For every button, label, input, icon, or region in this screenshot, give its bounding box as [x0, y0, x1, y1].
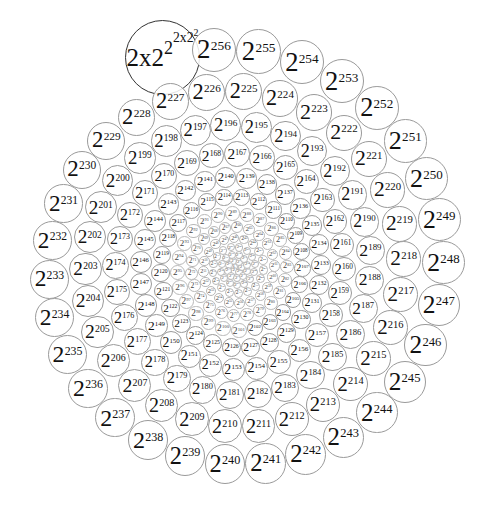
exponent: 30 — [223, 248, 226, 251]
exponent: 80 — [271, 299, 275, 304]
special-sup1: 2 — [164, 39, 173, 57]
power-label: 2250 — [410, 166, 443, 192]
exponent: 243 — [340, 426, 359, 440]
power-circle: 2253 — [320, 59, 364, 103]
power-circle: 2227 — [152, 83, 190, 121]
power-circle: 2132 — [309, 275, 329, 295]
power-circle: 2191 — [338, 180, 368, 210]
power-label: 213 — [242, 256, 247, 261]
power-label: 239 — [252, 283, 258, 289]
exponent: 145 — [144, 235, 154, 242]
power-label: 291 — [200, 217, 209, 226]
power-label: 2132 — [311, 279, 326, 291]
exponent: 218 — [401, 250, 417, 261]
exponent: 194 — [283, 129, 297, 139]
power-label: 274 — [197, 293, 205, 301]
power-label: 2194 — [274, 127, 297, 145]
power-label: 2231 — [49, 192, 78, 215]
exponent: 15 — [232, 252, 234, 255]
special-sup2: 2x2 — [173, 31, 194, 45]
power-label: 2226 — [193, 81, 221, 103]
power-label: 2103 — [264, 317, 276, 327]
exponent: 163 — [321, 193, 332, 202]
exponent: 122 — [169, 303, 177, 309]
exponent: 151 — [188, 350, 198, 357]
exponent: 203 — [83, 260, 97, 271]
exponent: 124 — [194, 330, 202, 336]
power-label: 2148 — [138, 299, 155, 312]
power-label: 290 — [214, 211, 223, 220]
power-circle: 2245 — [384, 361, 426, 403]
exponent: 25 — [255, 261, 257, 264]
exponent: 142 — [184, 184, 194, 191]
power-label: 2161 — [333, 237, 352, 252]
exponent: 101 — [238, 327, 245, 332]
power-circle: 259 — [262, 282, 273, 293]
power-label: 2113 — [235, 192, 248, 203]
power-label: 221 — [234, 283, 239, 288]
exponent: 43 — [259, 248, 262, 252]
exponent: 128 — [268, 337, 277, 343]
power-circle: 2215 — [356, 341, 391, 376]
power-label: 266 — [234, 223, 241, 230]
power-label: 253 — [208, 288, 214, 294]
exponent: 144 — [153, 215, 163, 222]
power-circle: 2145 — [134, 229, 156, 251]
power-label: 255 — [226, 299, 233, 306]
exponent: 114 — [223, 192, 231, 198]
power-label: 2158 — [322, 308, 340, 322]
exponent: 253 — [339, 70, 359, 85]
exponent: 50 — [204, 258, 207, 262]
exponent: 202 — [87, 229, 101, 240]
power-label: 222 — [242, 281, 247, 286]
exponent: 97 — [186, 297, 191, 302]
power-label: 2114 — [218, 192, 231, 203]
power-label: 227 — [244, 248, 249, 253]
exponent: 12 — [247, 262, 249, 265]
power-circle: 2121 — [154, 282, 173, 301]
power-label: 2241 — [250, 451, 281, 476]
exponent: 148 — [145, 300, 155, 307]
power-circle: 2159 — [328, 281, 352, 305]
exponent: 18 — [221, 269, 223, 272]
power-label: 275 — [206, 302, 214, 310]
power-circle: 2127 — [241, 338, 260, 357]
exponent: 127 — [249, 342, 258, 348]
power-label: 295 — [173, 268, 182, 277]
power-label: 2184 — [300, 367, 322, 384]
exponent: 27 — [247, 248, 249, 251]
power-label: 292 — [189, 226, 198, 235]
power-circle: 2119 — [153, 246, 171, 264]
power-label: 2117 — [172, 217, 185, 228]
power-circle: 232 — [209, 260, 218, 269]
power-circle: 293 — [177, 236, 192, 251]
power-circle: 2154 — [245, 357, 268, 380]
power-label: 2151 — [181, 349, 198, 363]
exponent: 211 — [256, 418, 271, 429]
power-label: 2238 — [133, 428, 163, 452]
power-circle: 276 — [215, 306, 228, 319]
power-circle: 2199 — [124, 142, 155, 173]
exponent: 87 — [260, 216, 264, 221]
exponent: 198 — [164, 133, 178, 143]
exponent: 72 — [192, 270, 196, 274]
exponent: 216 — [388, 319, 404, 330]
power-label: 2180 — [192, 381, 213, 398]
power-label: 2217 — [387, 284, 414, 305]
power-circle: 2105 — [285, 292, 301, 308]
power-label: 2237 — [100, 406, 130, 430]
exponent: 152 — [209, 359, 219, 366]
power-label: 2156 — [290, 343, 308, 357]
exponent: 17 — [222, 262, 224, 265]
power-label: 2182 — [247, 386, 268, 403]
power-circle: 2137 — [275, 184, 296, 205]
power-label: 2101 — [233, 326, 245, 336]
exponent: 188 — [368, 272, 381, 282]
power-label: 2207 — [122, 376, 147, 396]
power-circle: 2218 — [386, 241, 421, 276]
exponent: 254 — [299, 51, 319, 66]
power-label: 2163 — [313, 192, 332, 207]
power-label: 2133 — [314, 259, 329, 271]
power-circle: 2114 — [215, 189, 233, 207]
exponent: 147 — [139, 278, 149, 285]
